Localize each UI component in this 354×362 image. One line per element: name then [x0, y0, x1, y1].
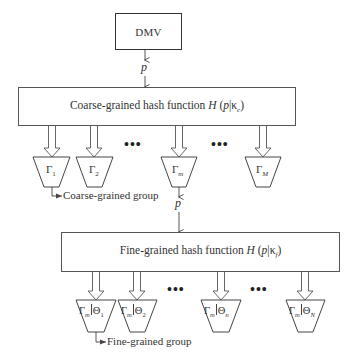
fine-group-N-label: ΓmΘN [289, 304, 315, 318]
fine-hash-function-box: Fine-grained hash function H (p|κf) [61, 232, 340, 272]
coarse-trapezoids [33, 157, 281, 187]
p-signal-label-2: p [175, 196, 181, 211]
fine-ellipsis-2: ••• [250, 283, 268, 297]
p-signal-label-1: p [141, 60, 147, 75]
fine-group-1-label: ΓmΘ1 [79, 304, 104, 318]
coarse-group-caption: Coarse-grained group [63, 189, 159, 201]
fine-ellipsis-1: ••• [167, 283, 185, 297]
fine-group-caption: Fine-grained group [107, 335, 192, 347]
coarse-ellipsis-2: ••• [211, 138, 229, 152]
dmv-label: DMV [135, 26, 162, 38]
dmv-source-box: DMV [115, 13, 182, 50]
fine-caption-pointer [96, 332, 106, 342]
fine-hollow-arrows [88, 272, 313, 300]
coarse-caption-pointer [52, 187, 62, 196]
fine-hash-function-label: Fine-grained hash function H (p|κf) [120, 244, 281, 259]
coarse-hollow-arrows [44, 126, 271, 157]
coarse-hash-function-box: Coarse-grained hash function H (p|κc) [18, 87, 296, 126]
fine-group-n-label: ΓmΘn [204, 304, 229, 318]
fine-trapezoids [76, 300, 325, 332]
coarse-hash-function-label: Coarse-grained hash function H (p|κc) [70, 99, 244, 114]
coarse-group-1-label: Γ1 [46, 163, 56, 178]
coarse-group-2-label: Γ2 [89, 163, 99, 178]
coarse-group-M-label: ΓM [256, 163, 268, 178]
fine-group-2-label: ΓmΘ2 [121, 304, 146, 318]
coarse-ellipsis-1: ••• [124, 138, 142, 152]
coarse-group-m-label: Γm [172, 163, 183, 178]
